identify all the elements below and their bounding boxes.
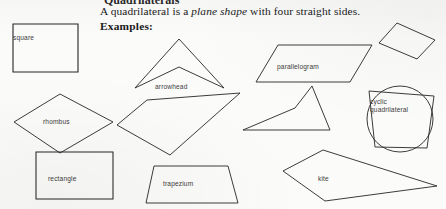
- label-rectangle: rectangle: [48, 175, 76, 183]
- label-cyclic-line-1: cyclic: [370, 98, 387, 105]
- examples-heading: Examples:: [100, 20, 153, 33]
- label-cyclic-line-2: quadrilateral: [370, 106, 408, 113]
- sentence-italic-phrase: plane shape: [191, 5, 247, 17]
- label-arrowhead: arrowhead: [155, 83, 188, 91]
- label-cyclic-quadrilateral: cyclicquadrilateral: [370, 98, 408, 114]
- definition-sentence: A quadrilateral is a plane shape with fo…: [100, 5, 360, 18]
- shape-irregular-quadrilateral: [117, 93, 240, 155]
- scanned-textbook-page: Quadrilaterals A quadrilateral is a plan…: [0, 0, 446, 209]
- label-square: square: [13, 34, 34, 42]
- sentence-part-1: A quadrilateral is a: [100, 5, 191, 17]
- sentence-part-2: with four straight sides.: [247, 5, 360, 17]
- label-rhombus: rhombus: [43, 118, 70, 126]
- shape-tilted-rectangle: [379, 23, 435, 59]
- label-kite: kite: [318, 175, 329, 183]
- shape-arrowhead: [135, 39, 224, 88]
- label-parallelogram: parallelogram: [277, 63, 319, 71]
- label-trapezium: trapezium: [163, 180, 193, 188]
- circumcircle: [367, 86, 433, 152]
- shape-concave-dart-2: [243, 86, 330, 130]
- shape-kite: [283, 150, 437, 201]
- shape-square: [13, 24, 78, 72]
